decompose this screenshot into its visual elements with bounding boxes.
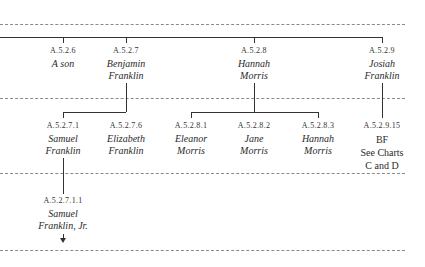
person-surname: Morris bbox=[156, 145, 226, 157]
person-node: A.5.2.8 Hannah Morris bbox=[219, 45, 289, 82]
person-code: A.5.2.8.1 bbox=[156, 120, 226, 132]
person-code: A.5.2.7.6 bbox=[91, 120, 161, 132]
drop-line bbox=[191, 112, 192, 118]
person-node: A.5.2.7.6 Elizabeth Franklin bbox=[91, 120, 161, 157]
generation-separator bbox=[0, 250, 405, 251]
person-surname: Morris bbox=[283, 145, 353, 157]
person-surname: Franklin, Jr. bbox=[28, 220, 98, 232]
drop-line bbox=[254, 37, 255, 43]
descent-line bbox=[63, 158, 64, 194]
generation-separator bbox=[0, 24, 405, 25]
person-surname: Morris bbox=[219, 145, 289, 157]
sibling-connector bbox=[63, 112, 126, 113]
person-node-bf: A.5.2.9.15 BF See Charts C and D bbox=[347, 120, 417, 172]
person-name: Hannah bbox=[219, 58, 289, 70]
person-name: BF bbox=[347, 133, 417, 146]
drop-line bbox=[318, 112, 319, 118]
generation-separator bbox=[0, 173, 405, 174]
drop-line bbox=[382, 37, 383, 43]
person-node: A.5.2.7.1 Samuel Franklin bbox=[28, 120, 98, 157]
person-code: A.5.2.7.1.1 bbox=[28, 195, 98, 207]
person-name: Jane bbox=[219, 133, 289, 145]
person-name: A son bbox=[28, 58, 98, 70]
person-name: Elizabeth bbox=[91, 133, 161, 145]
chart-reference: See Charts bbox=[347, 146, 417, 159]
drop-line bbox=[63, 37, 64, 43]
descent-line bbox=[254, 83, 255, 112]
person-name: Hannah bbox=[283, 133, 353, 145]
person-surname: Morris bbox=[219, 70, 289, 82]
person-node: A.5.2.9 Josiah Franklin bbox=[347, 45, 417, 82]
person-node: A.5.2.8.3 Hannah Morris bbox=[283, 120, 353, 157]
person-surname: Franklin bbox=[91, 145, 161, 157]
person-node: A.5.2.7.1.1 Samuel Franklin, Jr. bbox=[28, 195, 98, 232]
person-name: Eleanor bbox=[156, 133, 226, 145]
descent-line bbox=[382, 83, 383, 118]
chart-reference: C and D bbox=[347, 159, 417, 172]
arrow-down-icon bbox=[60, 238, 66, 243]
person-surname: Franklin bbox=[91, 70, 161, 82]
generation-separator bbox=[0, 98, 405, 99]
sibling-connector bbox=[0, 37, 382, 38]
person-code: A.5.2.8 bbox=[219, 45, 289, 57]
person-code: A.5.2.9.15 bbox=[347, 120, 417, 132]
drop-line bbox=[63, 112, 64, 118]
person-code: A.5.2.8.2 bbox=[219, 120, 289, 132]
person-code: A.5.2.9 bbox=[347, 45, 417, 57]
person-name: Josiah bbox=[347, 58, 417, 70]
descent-line bbox=[126, 83, 127, 112]
person-surname: Franklin bbox=[347, 70, 417, 82]
person-name: Samuel bbox=[28, 133, 98, 145]
person-code: A.5.2.8.3 bbox=[283, 120, 353, 132]
person-node: A.5.2.8.1 Eleanor Morris bbox=[156, 120, 226, 157]
person-node: A.5.2.7 Benjamin Franklin bbox=[91, 45, 161, 82]
person-code: A.5.2.6 bbox=[28, 45, 98, 57]
person-code: A.5.2.7 bbox=[91, 45, 161, 57]
person-code: A.5.2.7.1 bbox=[28, 120, 98, 132]
person-name: Samuel bbox=[28, 208, 98, 220]
sibling-connector bbox=[191, 112, 318, 113]
person-node: A.5.2.6 A son bbox=[28, 45, 98, 70]
person-name: Benjamin bbox=[91, 58, 161, 70]
person-node: A.5.2.8.2 Jane Morris bbox=[219, 120, 289, 157]
person-surname: Franklin bbox=[28, 145, 98, 157]
drop-line bbox=[126, 37, 127, 43]
